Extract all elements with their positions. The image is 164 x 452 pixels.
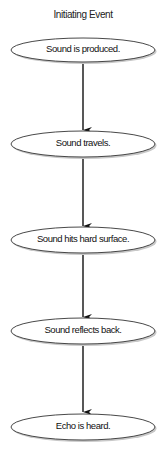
node-2-label: Sound travels. bbox=[10, 137, 156, 149]
flowchart-canvas bbox=[0, 0, 164, 452]
node-1-label: Sound is produced. bbox=[10, 43, 156, 55]
node-4-label: Sound reflects back. bbox=[10, 324, 156, 336]
node-5-label: Echo is heard. bbox=[10, 420, 156, 432]
node-3-label: Sound hits hard surface. bbox=[10, 233, 156, 245]
